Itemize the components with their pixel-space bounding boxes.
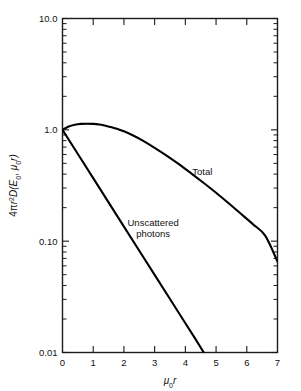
y-tick-label: 10.0 <box>39 13 58 24</box>
y-tick-label: 1.0 <box>44 124 57 135</box>
x-tick-label: 3 <box>152 357 157 368</box>
plot-background <box>0 0 301 391</box>
semilog-plot: 10.01.00.100.01 01234567 TotalUnscattere… <box>0 0 301 391</box>
x-tick-label: 0 <box>60 357 65 368</box>
x-tick-label: 5 <box>213 357 218 368</box>
x-tick-label: 4 <box>183 357 188 368</box>
x-tick-label: 7 <box>275 357 280 368</box>
x-tick-label: 6 <box>244 357 249 368</box>
y-tick-label: 0.10 <box>39 236 58 247</box>
x-tick-label: 1 <box>91 357 96 368</box>
x-tick-label: 2 <box>121 357 126 368</box>
y-tick-label: 0.01 <box>39 347 58 358</box>
curve-label-total: Total <box>192 166 212 177</box>
figure-container: 10.01.00.100.01 01234567 TotalUnscattere… <box>0 0 301 391</box>
